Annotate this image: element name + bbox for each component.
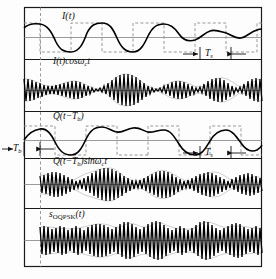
oqpsk-waveform-figure: I(t) I(t)cosωct Q(t−Tb) Q(t−Tb)sinωct sO…: [0, 0, 276, 279]
waveform-canvas: [0, 0, 276, 279]
